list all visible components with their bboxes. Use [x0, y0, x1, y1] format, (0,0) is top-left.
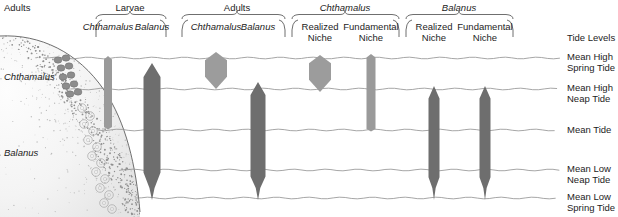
tide-label-mean-low-spring-tide: Mean LowSpring Tide [567, 192, 615, 213]
tide-label-mean-high-spring-tide: Mean HighSpring Tide [567, 52, 615, 73]
adults-balanus [251, 82, 266, 200]
tide-label-mean-high-neap-tide: Mean HighNeap Tide [567, 83, 613, 104]
column-label-chthamalus: Chthamalus [191, 22, 242, 33]
chthamalus-realized-niche [309, 55, 331, 92]
balanus-realized-niche [429, 86, 440, 200]
left-axis-chthamalus-label: Chthamalus [4, 72, 55, 83]
column-label-balanus: Balanus [241, 22, 275, 33]
column-label-balanus: Balanus [135, 22, 169, 33]
group-label-larvae: Larvae [115, 3, 144, 14]
column-label-realized-niche: RealizedNiche [416, 22, 453, 43]
larvae-chthamalus [104, 56, 112, 130]
group-label-balanus: Balanus [442, 3, 476, 14]
left-axis-adults-label: Adults [4, 3, 30, 14]
group-label-chthamalus: Chthamalus [320, 3, 371, 14]
left-axis-balanus-label: Balanus [4, 148, 38, 159]
connell-barnacle-zonation-figure: LarvaeChthamalusBalanusAdultsChthamalusB… [0, 0, 618, 217]
column-label-fundamental-niche: FundamentalNiche [343, 22, 398, 43]
group-label-adults: Adults [224, 3, 250, 14]
larvae-balanus [144, 63, 161, 200]
distribution-bars [104, 52, 491, 200]
chthamalus-fundamental-niche [367, 54, 376, 132]
column-label-realized-niche: RealizedNiche [302, 22, 339, 43]
column-label-fundamental-niche: FundamentalNiche [457, 22, 512, 43]
tide-label-mean-tide: Mean Tide [567, 125, 611, 136]
balanus-fundamental-niche [480, 86, 491, 200]
tide-label-mean-low-neap-tide: Mean LowNeap Tide [567, 164, 611, 185]
column-label-chthamalus: Chthamalus [83, 22, 134, 33]
tide-levels-header: Tide Levels [567, 33, 615, 44]
